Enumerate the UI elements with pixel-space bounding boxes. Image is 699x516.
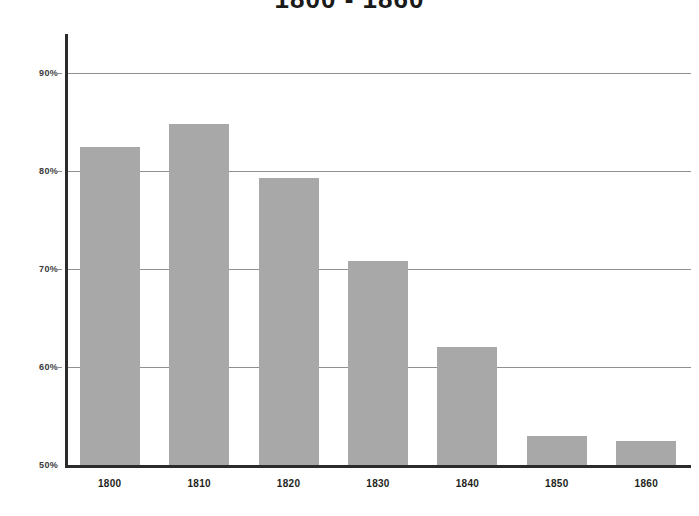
bar-1830[interactable]	[348, 261, 408, 465]
x-tick-label-1860: 1860	[606, 478, 686, 489]
y-tick-mark-90	[50, 73, 62, 74]
x-tick-label-1830: 1830	[338, 478, 418, 489]
bar-1850[interactable]	[527, 436, 587, 465]
gridline-90	[68, 73, 691, 74]
bar-1840[interactable]	[437, 347, 497, 465]
x-tick-label-1810: 1810	[159, 478, 239, 489]
x-tick-label-1820: 1820	[249, 478, 329, 489]
plot-area	[65, 34, 691, 468]
y-tick-mark-60	[50, 367, 62, 368]
y-tick-mark-70	[50, 269, 62, 270]
x-tick-label-1800: 1800	[70, 478, 150, 489]
y-tick-label-50: 50%	[6, 460, 58, 470]
x-axis-line	[65, 465, 691, 468]
bar-1810[interactable]	[169, 124, 229, 465]
gridline-80	[68, 171, 691, 172]
chart-title: 1800 - 1860	[0, 0, 699, 15]
y-axis-line	[65, 34, 68, 468]
bar-1860[interactable]	[616, 441, 676, 465]
x-tick-label-1850: 1850	[517, 478, 597, 489]
x-tick-label-1840: 1840	[427, 478, 507, 489]
bar-1820[interactable]	[259, 178, 319, 465]
bar-1800[interactable]	[80, 147, 140, 465]
bar-chart: 1800 - 1860 50%60%70%80%90% 180018101820…	[0, 0, 699, 516]
y-tick-mark-80	[50, 171, 62, 172]
